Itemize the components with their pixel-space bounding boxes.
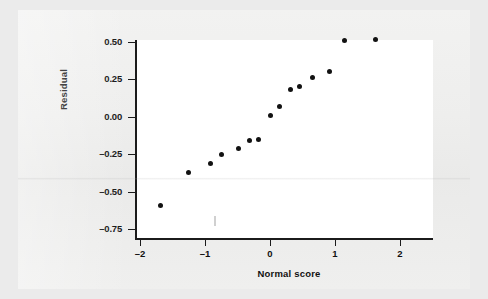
x-tick-label: 1 bbox=[323, 248, 347, 259]
y-tick-mark bbox=[128, 79, 135, 80]
x-tick-label: –1 bbox=[193, 248, 217, 259]
y-tick-mark bbox=[128, 229, 135, 230]
y-tick-label: –0.50 bbox=[74, 186, 122, 197]
x-tick-mark bbox=[140, 240, 141, 246]
data-point bbox=[277, 104, 282, 109]
screenshot-root: 0.500.250.00–0.25–0.50–0.75 –2–1012 Resi… bbox=[0, 0, 488, 299]
y-tick-mark bbox=[128, 192, 135, 193]
data-point bbox=[236, 146, 241, 151]
y-tick-label: 0.50 bbox=[74, 36, 122, 47]
x-axis-title: Normal score bbox=[18, 268, 488, 279]
y-tick-label: –0.25 bbox=[74, 148, 122, 159]
scanned-page: 0.500.250.00–0.25–0.50–0.75 –2–1012 Resi… bbox=[18, 10, 470, 289]
x-tick-mark bbox=[270, 240, 271, 246]
y-tick-mark bbox=[128, 117, 135, 118]
x-tick-label: 0 bbox=[258, 248, 282, 259]
x-tick-mark bbox=[400, 240, 401, 246]
data-point bbox=[158, 203, 163, 208]
y-tick-mark bbox=[128, 154, 135, 155]
x-tick-label: 2 bbox=[388, 248, 412, 259]
x-axis-line bbox=[135, 238, 433, 240]
y-tick-mark bbox=[128, 42, 135, 43]
data-point bbox=[247, 138, 252, 143]
y-tick-label: 0.00 bbox=[74, 111, 122, 122]
y-tick-label: –0.75 bbox=[74, 223, 122, 234]
data-point bbox=[186, 170, 191, 175]
data-point bbox=[208, 161, 213, 166]
data-point bbox=[268, 113, 273, 118]
y-tick-label: 0.25 bbox=[74, 73, 122, 84]
y-axis-title: Residual bbox=[58, 69, 69, 110]
y-axis-line bbox=[135, 40, 137, 240]
data-point bbox=[256, 137, 261, 142]
scan-artifact bbox=[214, 216, 216, 226]
plot-canvas bbox=[136, 40, 433, 239]
x-tick-mark bbox=[335, 240, 336, 246]
x-tick-mark bbox=[205, 240, 206, 246]
x-tick-label: –2 bbox=[128, 248, 152, 259]
